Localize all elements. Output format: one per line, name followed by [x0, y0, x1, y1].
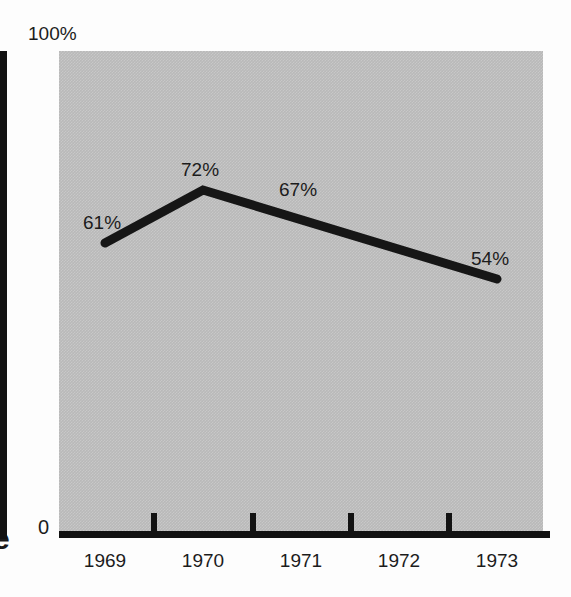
chart-page: e 100% 0 1969 1970 1971 1972 1973 61% 72…: [0, 0, 571, 597]
series-line-layer: [0, 0, 571, 597]
data-label-1971: 67%: [279, 180, 317, 199]
series-line-percentage: [105, 190, 497, 279]
data-label-1969: 61%: [83, 213, 121, 232]
data-label-1973: 54%: [471, 249, 509, 268]
data-label-1970: 72%: [181, 160, 219, 179]
